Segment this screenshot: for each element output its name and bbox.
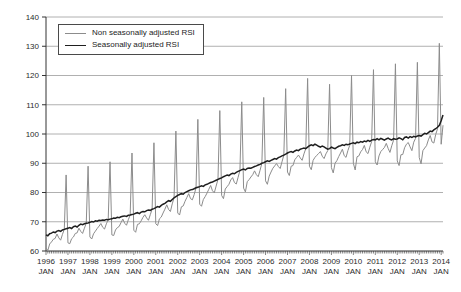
x-tick-label-month-1999: JAN (104, 267, 119, 276)
x-tick-label-month-2000: JAN (126, 267, 141, 276)
x-tick-label-year-2001: 2001 (147, 257, 165, 266)
x-tick-label-month-2001: JAN (148, 267, 163, 276)
sa-series-line (46, 115, 443, 236)
nsa-line-sample-icon (65, 33, 86, 35)
legend-item-seasonally-adjusted: Seasonally adjusted RSI (65, 41, 197, 50)
x-tick-label-month-2002: JAN (170, 267, 185, 276)
x-tick-label-year-2002: 2002 (169, 257, 187, 266)
y-tick-label-120: 120 (26, 71, 40, 80)
x-tick-label-month-2011: JAN (368, 267, 383, 276)
chart-legend: Non seasonally adjusted RSI Seasonally a… (58, 24, 204, 55)
y-tick-label-80: 80 (30, 188, 39, 197)
x-tick-label-year-1998: 1998 (81, 257, 99, 266)
y-tick-label-60: 60 (30, 247, 39, 256)
y-tick-label-130: 130 (26, 42, 40, 51)
y-tick-label-100: 100 (26, 130, 40, 139)
x-tick-label-month-1998: JAN (82, 267, 97, 276)
x-tick-label-month-2013: JAN (412, 267, 427, 276)
x-tick-label-year-2007: 2007 (279, 257, 297, 266)
x-tick-label-year-2012: 2012 (388, 257, 406, 266)
x-tick-label-month-2014: JAN (434, 267, 449, 276)
legend-item-non-seasonally-adjusted: Non seasonally adjusted RSI (65, 29, 197, 38)
x-tick-label-year-2006: 2006 (257, 257, 275, 266)
x-tick-label-year-1999: 1999 (103, 257, 121, 266)
x-tick-label-year-2000: 2000 (125, 257, 143, 266)
x-tick-label-year-2009: 2009 (323, 257, 341, 266)
x-tick-label-month-2005: JAN (236, 267, 251, 276)
y-tick-label-110: 110 (26, 101, 39, 110)
x-tick-label-month-2012: JAN (390, 267, 405, 276)
x-tick-label-month-2003: JAN (192, 267, 207, 276)
x-tick-label-month-2007: JAN (280, 267, 295, 276)
x-tick-label-year-2013: 2013 (410, 257, 428, 266)
y-tick-label-140: 140 (26, 13, 40, 22)
x-tick-label-year-1996: 1996 (37, 257, 55, 266)
y-tick-label-70: 70 (30, 218, 39, 227)
legend-label-nsa: Non seasonally adjusted RSI (92, 29, 195, 38)
y-tick-label-90: 90 (30, 159, 39, 168)
x-tick-label-year-2014: 2014 (432, 257, 450, 266)
x-tick-label-month-2009: JAN (324, 267, 339, 276)
x-tick-label-year-2004: 2004 (213, 257, 231, 266)
x-tick-label-month-2006: JAN (258, 267, 273, 276)
x-tick-label-month-1996: JAN (38, 267, 53, 276)
sa-line-sample-icon (65, 45, 86, 47)
x-tick-label-month-2010: JAN (346, 267, 361, 276)
legend-label-sa: Seasonally adjusted RSI (92, 41, 179, 50)
x-tick-label-year-2003: 2003 (191, 257, 209, 266)
x-tick-label-year-2005: 2005 (235, 257, 253, 266)
x-tick-label-year-2008: 2008 (301, 257, 319, 266)
x-tick-label-year-1997: 1997 (59, 257, 77, 266)
x-tick-label-year-2010: 2010 (344, 257, 362, 266)
x-tick-label-year-2011: 2011 (367, 257, 385, 266)
x-tick-label-month-2008: JAN (302, 267, 317, 276)
rsi-line-chart-figure: 607080901001101201301401996JAN1997JAN199… (0, 0, 461, 292)
x-tick-label-month-1997: JAN (60, 267, 75, 276)
x-tick-label-month-2004: JAN (214, 267, 229, 276)
